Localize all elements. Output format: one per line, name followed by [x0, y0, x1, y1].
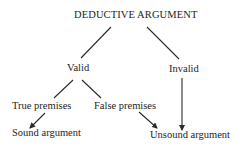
node-false-premises: False premises [94, 101, 156, 112]
edge-valid-to-true-premises [54, 80, 73, 98]
node-valid: Valid [67, 63, 89, 74]
edge-root-to-invalid [147, 27, 179, 59]
edge-valid-to-false-premises [82, 80, 101, 98]
node-true-premises: True premises [12, 101, 71, 112]
arrow-true-premises-to-sound [30, 113, 45, 128]
root-node-deductive-argument: DEDUCTIVE ARGUMENT [74, 10, 197, 21]
node-sound-argument: Sound argument [12, 128, 81, 139]
arrow-false-premises-to-unsound [139, 112, 157, 128]
edge-root-to-valid [81, 27, 111, 58]
node-unsound-argument: Unsound argument [150, 130, 230, 141]
node-invalid: Invalid [169, 64, 199, 75]
